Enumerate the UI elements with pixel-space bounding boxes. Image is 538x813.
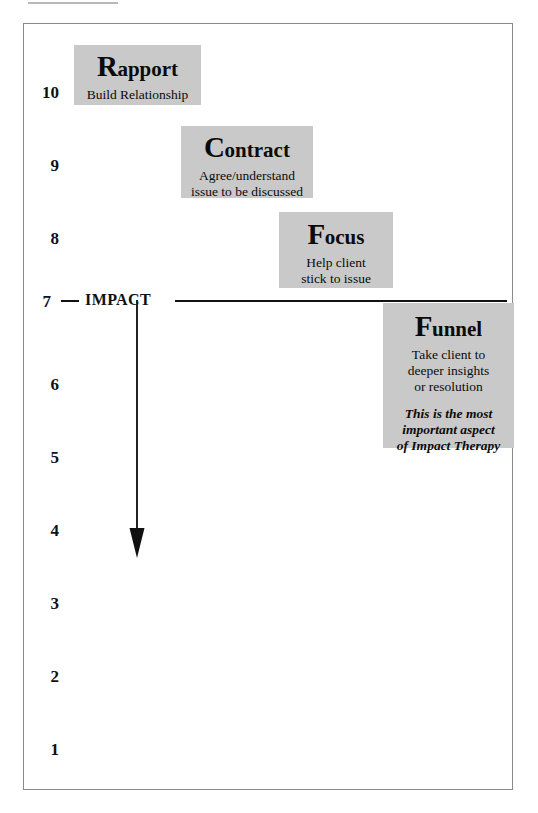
stage-box-focus: Focus Help client stick to issue bbox=[279, 212, 393, 288]
impact-dash-left bbox=[61, 300, 79, 302]
diagram-frame: 10 9 8 6 5 4 3 2 1 Rapport Build Relatio… bbox=[23, 23, 513, 790]
stage-desc-focus: Help client stick to issue bbox=[279, 255, 393, 287]
stage-titlerest-funnel: unnel bbox=[432, 317, 482, 341]
stage-title-focus: Focus bbox=[279, 220, 393, 249]
stage-title-contract: Contract bbox=[181, 133, 313, 162]
stage-desc-rapport: Build Relationship bbox=[74, 87, 201, 103]
impact-axis-row: 7 IMPACT bbox=[35, 292, 507, 310]
stage-desc-contract: Agree/understand issue to be discussed bbox=[181, 168, 313, 200]
scale-number-8: 8 bbox=[25, 230, 59, 247]
stage-title-funnel: Funnel bbox=[383, 312, 514, 341]
downward-depth-arrow bbox=[128, 300, 146, 560]
scale-number-2: 2 bbox=[25, 668, 59, 685]
scale-number-10: 10 bbox=[25, 84, 59, 101]
scale-number-6: 6 bbox=[25, 376, 59, 393]
scale-number-1: 1 bbox=[25, 741, 59, 758]
stage-titlerest-rapport: apport bbox=[117, 57, 178, 81]
scale-number-5: 5 bbox=[25, 449, 59, 466]
scan-artifact-line bbox=[28, 2, 118, 4]
stage-box-rapport: Rapport Build Relationship bbox=[74, 45, 201, 105]
stage-dropcap-rapport: R bbox=[97, 50, 117, 82]
stage-titlerest-focus: ocus bbox=[325, 225, 365, 249]
stage-note-funnel: This is the most important aspect of Imp… bbox=[383, 406, 514, 455]
stage-titlerest-contract: ontract bbox=[225, 138, 290, 162]
scale-number-4: 4 bbox=[25, 522, 59, 539]
impact-rule-right bbox=[175, 300, 507, 302]
scale-number-3: 3 bbox=[25, 595, 59, 612]
scale-number-7: 7 bbox=[35, 293, 51, 310]
stage-box-funnel: Funnel Take client to deeper insights or… bbox=[383, 303, 514, 448]
stage-dropcap-focus: F bbox=[308, 218, 325, 250]
stage-box-contract: Contract Agree/understand issue to be di… bbox=[181, 126, 313, 198]
stage-dropcap-funnel: F bbox=[415, 310, 432, 342]
scale-number-9: 9 bbox=[25, 157, 59, 174]
stage-title-rapport: Rapport bbox=[74, 52, 201, 81]
stage-dropcap-contract: C bbox=[204, 131, 224, 163]
stage-desc-funnel: Take client to deeper insights or resolu… bbox=[383, 347, 514, 395]
